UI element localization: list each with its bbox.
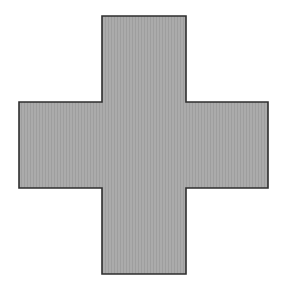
diagram-canvas (0, 0, 283, 291)
cross-shape (19, 16, 268, 274)
cross-diagram (0, 0, 283, 291)
